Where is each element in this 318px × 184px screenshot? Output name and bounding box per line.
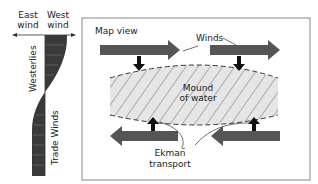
map-view-title: Map view bbox=[95, 26, 138, 36]
wind-text: wind bbox=[44, 20, 72, 30]
transport-text: transport bbox=[140, 159, 200, 170]
west-wind-label: West wind bbox=[44, 10, 72, 30]
mound-text: Mound bbox=[168, 83, 228, 93]
east-wind-label: East wind bbox=[14, 10, 42, 30]
wind-text: wind bbox=[14, 20, 42, 30]
west-text: West bbox=[44, 10, 72, 20]
trade-winds-label: Trade Winds bbox=[50, 110, 60, 165]
of-water-text: of water bbox=[168, 93, 228, 103]
ekman-text: Ekman bbox=[140, 148, 200, 159]
wind-profile bbox=[12, 33, 76, 176]
mound-label: Mound of water bbox=[168, 83, 228, 103]
westerlies-label: Westerlies bbox=[28, 45, 38, 92]
ekman-transport-label: Ekman transport bbox=[140, 148, 200, 170]
east-text: East bbox=[14, 10, 42, 20]
winds-label: Winds bbox=[196, 33, 223, 43]
